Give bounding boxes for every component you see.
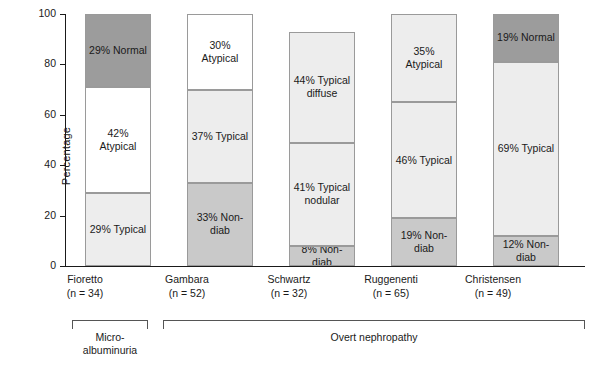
bar-segment-label: 33% Non-diab <box>188 211 252 237</box>
x-label-fioretto: Fioretto (n = 34) <box>30 272 140 300</box>
plot-area: 0 20 40 60 80 100 29% Typical42% Atypica… <box>65 14 585 266</box>
y-tick-label-60: 60 <box>30 108 56 120</box>
bar-segment-label: 41% Typical nodular <box>292 181 352 207</box>
bar-column-fioretto: 29% Typical42% Atypical29% Normal <box>85 14 151 266</box>
bar-segment: 19% Non-diab <box>391 218 457 266</box>
bracket-microalbuminuria <box>72 320 148 329</box>
x-label-n-3: (n = 65) <box>336 286 446 300</box>
bar-segment: 29% Normal <box>85 14 151 87</box>
bar-segment-label: 29% Typical <box>88 223 148 236</box>
x-label-n-0: (n = 34) <box>30 286 140 300</box>
y-tick-label-100: 100 <box>30 7 56 19</box>
x-label-name-4: Christensen <box>465 273 521 285</box>
bar-segment: 35% Atypical <box>391 14 457 102</box>
bar-segment: 33% Non-diab <box>187 183 253 266</box>
bar-segment-label: 30% Atypical <box>188 39 252 65</box>
stacked-bar-chart: Percentage 0 20 40 60 80 100 29% Typical… <box>0 0 608 378</box>
bar-segment-label: 29% Normal <box>87 44 149 57</box>
x-label-gambara: Gambara (n = 52) <box>132 272 242 300</box>
x-label-n-4: (n = 49) <box>438 286 548 300</box>
bracket-label-overt-nephropathy: Overt nephropathy <box>274 331 474 344</box>
bar-segment: 12% Non-diab <box>493 236 559 266</box>
y-tick-label-80: 80 <box>30 57 56 69</box>
y-tick-label-20: 20 <box>30 209 56 221</box>
bar-column-schwartz: 8% Non-diab41% Typical nodular44% Typica… <box>289 14 355 266</box>
bar-column-christensen: 12% Non-diab69% Typical19% Normal <box>493 14 559 266</box>
bar-segment: 8% Non-diab <box>289 246 355 266</box>
y-tick-label-40: 40 <box>30 158 56 170</box>
x-label-n-2: (n = 32) <box>234 286 344 300</box>
bar-segment-label: 12% Non-diab <box>494 238 558 264</box>
x-label-schwartz: Schwartz (n = 32) <box>234 272 344 300</box>
bracket-overt-nephropathy <box>163 320 585 329</box>
y-tick-20: 20 <box>60 216 65 217</box>
bar-segment-label: 42% Atypical <box>86 127 150 153</box>
y-tick-0: 0 <box>60 266 65 267</box>
bracket-label-microalbuminuria: Micro- albuminuria <box>65 331 155 357</box>
bar-column-ruggenenti: 19% Non-diab46% Typical35% Atypical <box>391 14 457 266</box>
bar-segment: 29% Typical <box>85 193 151 266</box>
bar-segment-label: 35% Atypical <box>392 45 456 71</box>
bar-segment-label: 37% Typical <box>190 130 250 143</box>
x-axis-line <box>65 266 585 267</box>
bar-segment-label: 44% Typical diffuse <box>292 74 352 100</box>
y-tick-80: 80 <box>60 64 65 65</box>
x-label-christensen: Christensen (n = 49) <box>438 272 548 300</box>
bar-segment-label: 69% Typical <box>496 142 556 155</box>
bar-segment: 42% Atypical <box>85 87 151 193</box>
bar-segment-label: 19% Normal <box>495 31 557 44</box>
x-label-n-1: (n = 52) <box>132 286 242 300</box>
bar-segment: 46% Typical <box>391 102 457 218</box>
bar-segment: 30% Atypical <box>187 14 253 90</box>
y-tick-60: 60 <box>60 115 65 116</box>
bar-column-gambara: 33% Non-diab37% Typical30% Atypical <box>187 14 253 266</box>
y-tick-label-0: 0 <box>30 259 56 271</box>
x-label-name-2: Schwartz <box>267 273 310 285</box>
x-label-name-1: Gambara <box>165 273 209 285</box>
bar-segment: 69% Typical <box>493 62 559 236</box>
bar-segment-label: 19% Non-diab <box>392 229 456 255</box>
x-label-name-3: Ruggenenti <box>364 273 418 285</box>
bar-segment-label: 46% Typical <box>394 154 454 167</box>
bar-segment: 19% Normal <box>493 14 559 62</box>
bar-segment: 41% Typical nodular <box>289 143 355 246</box>
x-label-ruggenenti: Ruggenenti (n = 65) <box>336 272 446 300</box>
y-tick-40: 40 <box>60 165 65 166</box>
bar-segment: 44% Typical diffuse <box>289 32 355 143</box>
y-axis-line <box>65 14 66 266</box>
x-label-name-0: Fioretto <box>67 273 103 285</box>
bar-segment-label: 8% Non-diab <box>290 246 354 266</box>
y-tick-100: 100 <box>60 14 65 15</box>
bar-segment: 37% Typical <box>187 90 253 183</box>
